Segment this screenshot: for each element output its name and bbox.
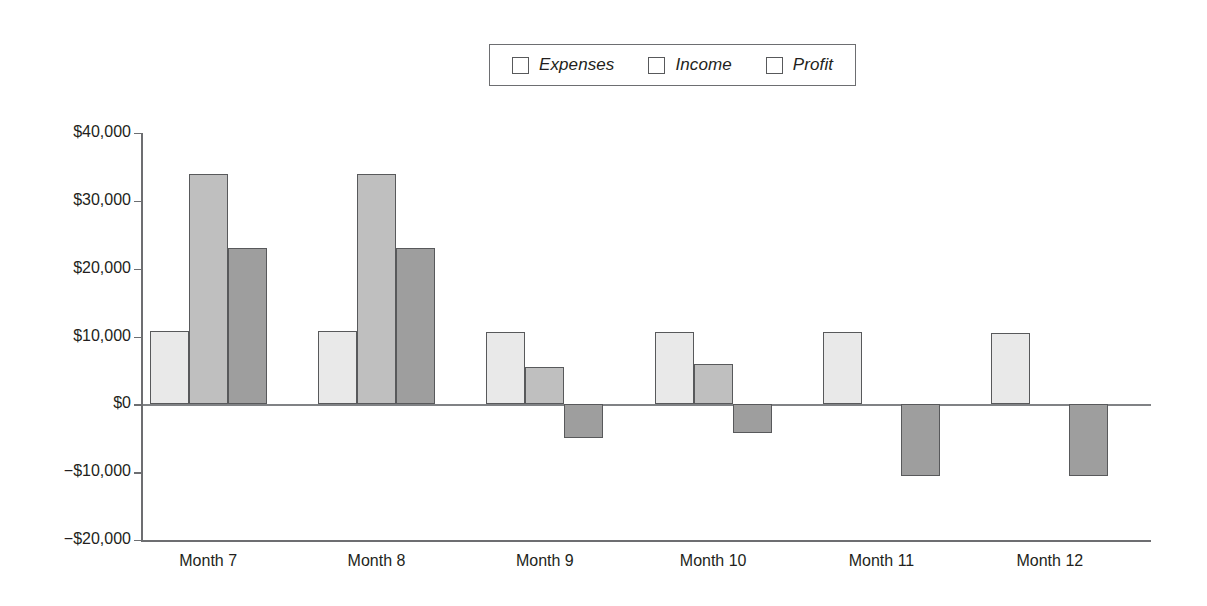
x-category-label: Month 8 <box>307 552 447 570</box>
x-axis-category-labels: Month 7Month 8Month 9Month 10Month 11Mon… <box>0 0 1207 606</box>
x-category-label: Month 12 <box>980 552 1120 570</box>
x-category-label: Month 9 <box>475 552 615 570</box>
chart-canvas: Expenses Income Profit $40,000$30,000$20… <box>0 0 1207 606</box>
x-category-label: Month 11 <box>812 552 952 570</box>
x-category-label: Month 7 <box>138 552 278 570</box>
x-category-label: Month 10 <box>643 552 783 570</box>
